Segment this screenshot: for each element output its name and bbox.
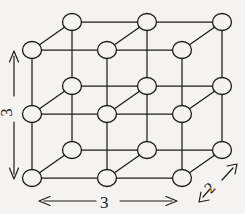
lattice-node — [63, 78, 82, 95]
lattice-node — [173, 42, 192, 59]
lattice-node — [63, 14, 82, 31]
height-dimension-label: 3 — [0, 108, 15, 117]
width-dimension-label: 3 — [100, 194, 109, 211]
lattice-node — [213, 78, 232, 95]
lattice-figure: 3 3 2 — [0, 0, 245, 214]
lattice-node — [173, 170, 192, 187]
lattice-node — [98, 42, 117, 59]
lattice-node — [138, 14, 157, 31]
lattice-node — [63, 142, 82, 159]
lattice-node — [138, 142, 157, 159]
lattice-edges — [32, 22, 222, 178]
lattice-node — [23, 170, 42, 187]
lattice-node — [23, 42, 42, 59]
lattice-node — [213, 142, 232, 159]
lattice-node — [213, 14, 232, 31]
lattice-node — [173, 106, 192, 123]
lattice-node — [98, 170, 117, 187]
lattice-node — [138, 78, 157, 95]
lattice-node — [98, 106, 117, 123]
lattice-node — [23, 106, 42, 123]
